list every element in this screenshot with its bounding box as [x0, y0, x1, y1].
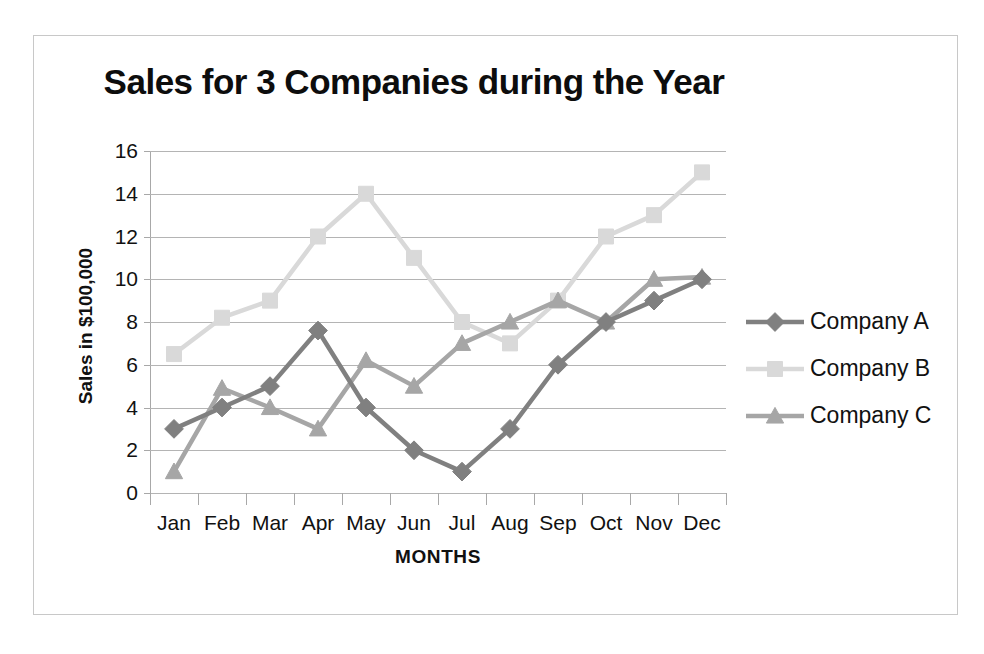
data-point-marker: [693, 270, 712, 289]
data-point-marker: [645, 291, 664, 310]
y-axis-tick-label: 6: [126, 353, 138, 377]
x-axis-tick: [438, 493, 439, 505]
x-axis-tick-label: Feb: [204, 511, 240, 535]
data-point-marker: [359, 186, 374, 201]
plot-wrapper: Sales in $100,000 0246810121416 JanFebMa…: [34, 36, 959, 616]
series-line: [174, 172, 702, 354]
data-point-marker: [165, 420, 184, 439]
series-company-b: [167, 165, 710, 362]
data-point-marker: [311, 229, 326, 244]
chart-legend: Company ACompany BCompany C: [744, 298, 959, 439]
x-axis-tick: [486, 493, 487, 505]
data-point-marker: [357, 352, 374, 368]
x-axis-tick: [582, 493, 583, 505]
x-axis-tick-label: Sep: [539, 511, 576, 535]
data-point-marker: [213, 380, 230, 396]
x-axis-title: MONTHS: [150, 546, 726, 568]
x-axis-tick: [390, 493, 391, 505]
legend-item-company-c[interactable]: Company C: [744, 392, 959, 439]
x-axis-tick-label: May: [346, 511, 386, 535]
data-point-marker: [599, 229, 614, 244]
data-point-marker: [455, 315, 470, 330]
x-axis-tick-label: Dec: [683, 511, 720, 535]
data-point-marker: [503, 336, 518, 351]
x-axis-tick-label: Jan: [157, 511, 191, 535]
square-marker-icon: [744, 357, 806, 381]
data-point-marker: [695, 165, 710, 180]
y-axis-tick-label: 12: [115, 225, 138, 249]
y-axis-tick-label: 10: [115, 267, 138, 291]
legend-label: Company B: [810, 355, 930, 382]
legend-item-company-b[interactable]: Company B: [744, 345, 959, 392]
x-axis-tick: [534, 493, 535, 505]
y-axis-tick-label: 0: [126, 481, 138, 505]
x-axis-tick: [150, 493, 151, 505]
y-axis-tick-label: 14: [115, 182, 138, 206]
x-axis-tick: [678, 493, 679, 505]
x-axis-tick-label: Apr: [302, 511, 335, 535]
x-axis-tick: [342, 493, 343, 505]
x-axis-tick-label: Jul: [449, 511, 476, 535]
data-point-marker: [263, 293, 278, 308]
legend-item-company-a[interactable]: Company A: [744, 298, 959, 345]
y-axis-title: Sales in $100,000: [75, 196, 97, 456]
data-point-marker: [215, 310, 230, 325]
diamond-marker-icon: [744, 310, 806, 334]
x-axis-tick-label: Jun: [397, 511, 431, 535]
triangle-marker-icon: [744, 404, 806, 428]
x-axis-tick: [726, 493, 727, 505]
data-point-marker: [167, 347, 182, 362]
x-axis-tick: [246, 493, 247, 505]
legend-label: Company C: [810, 402, 931, 429]
chart-frame: Sales for 3 Companies during the Year Sa…: [33, 35, 958, 615]
x-axis-tick: [198, 493, 199, 505]
x-axis-tick-label: Oct: [590, 511, 623, 535]
y-axis-tick-label: 2: [126, 438, 138, 462]
y-axis-tick-label: 16: [115, 139, 138, 163]
series-layer: [150, 151, 726, 493]
plot-area: 0246810121416 JanFebMarAprMayJunJulAugSe…: [150, 151, 726, 493]
series-company-c: [165, 268, 710, 478]
y-axis-tick-label: 8: [126, 310, 138, 334]
x-axis-tick: [294, 493, 295, 505]
x-axis-tick: [630, 493, 631, 505]
data-point-marker: [647, 208, 662, 223]
legend-label: Company A: [810, 308, 929, 335]
x-axis-tick-label: Nov: [635, 511, 672, 535]
y-axis-tick-label: 4: [126, 396, 138, 420]
x-axis-tick-label: Mar: [252, 511, 288, 535]
x-axis-tick-label: Aug: [491, 511, 528, 535]
data-point-marker: [407, 250, 422, 265]
